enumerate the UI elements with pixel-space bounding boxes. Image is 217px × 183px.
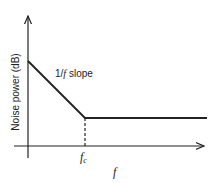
corner-frequency-label: fc: [80, 150, 87, 165]
slope-label: 1/f slope: [55, 68, 93, 79]
noise-spectrum-diagram: Noise power (dB) 1/f slope fc f: [0, 0, 217, 183]
x-axis-label: f: [113, 165, 118, 179]
y-axis-label: Noise power (dB): [10, 53, 21, 130]
